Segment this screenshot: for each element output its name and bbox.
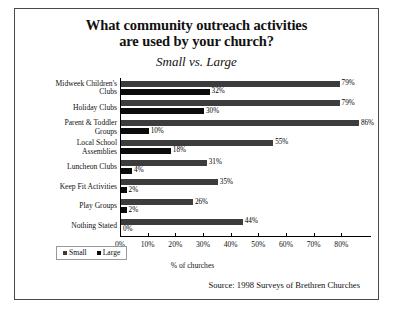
value-label-large: 0% — [123, 226, 133, 233]
value-label-large: 32% — [212, 88, 225, 95]
x-tick — [175, 233, 176, 237]
bar-group: Keep Fit Activities35%2% — [121, 177, 370, 197]
category-label: Holiday Clubs — [13, 103, 117, 111]
plot-area: Midweek Children's Clubs79%32%Holiday Cl… — [120, 78, 370, 236]
category-label: Play Groups — [13, 202, 117, 210]
chart-subtitle: Small vs. Large — [15, 54, 378, 70]
value-label-small: 55% — [275, 139, 288, 146]
x-axis-title: % of churches — [15, 261, 370, 270]
x-tick-label: 80% — [334, 240, 348, 249]
bar-large — [121, 89, 210, 95]
legend-item-large: Large — [97, 248, 121, 257]
chart-title: What community outreach activities are u… — [15, 18, 378, 49]
value-label-small: 35% — [220, 179, 233, 186]
x-tick-label: 30% — [196, 240, 210, 249]
value-label-large: 18% — [173, 147, 186, 154]
x-tick — [258, 233, 259, 237]
legend: Small Large — [56, 246, 127, 260]
bar-group: Local School Assemblies55%18% — [121, 137, 370, 157]
x-tick-label: 10% — [141, 240, 155, 249]
x-tick — [314, 233, 315, 237]
x-tick — [231, 233, 232, 237]
category-label: Midweek Children's Clubs — [13, 79, 117, 96]
bar-large — [121, 148, 171, 154]
x-tick — [148, 233, 149, 237]
bar-large — [121, 128, 149, 134]
legend-item-small: Small — [63, 248, 87, 257]
value-label-small: 31% — [209, 159, 222, 166]
bar-large — [121, 207, 127, 213]
value-label-large: 2% — [129, 207, 139, 214]
value-label-small: 79% — [342, 100, 355, 107]
x-tick-label: 50% — [251, 240, 265, 249]
bar-small — [121, 140, 273, 146]
legend-swatch-large-icon — [97, 251, 101, 255]
x-tick-label: 60% — [279, 240, 293, 249]
bar-group: Holiday Clubs79%30% — [121, 98, 370, 118]
value-label-small: 26% — [195, 199, 208, 206]
value-label-large: 10% — [151, 128, 164, 135]
chart-frame: What community outreach activities are u… — [14, 8, 379, 300]
x-tick — [341, 233, 342, 237]
category-label: Nothing Stated — [13, 222, 117, 230]
value-label-large: 2% — [129, 187, 139, 194]
x-tick-label: 20% — [168, 240, 182, 249]
x-tick — [286, 233, 287, 237]
legend-swatch-small-icon — [63, 251, 67, 255]
bar-small — [121, 120, 359, 126]
value-label-small: 79% — [342, 80, 355, 87]
x-tick-label: 70% — [307, 240, 321, 249]
bar-small — [121, 100, 340, 106]
source-note: Source: 1998 Surveys of Brethren Churche… — [15, 280, 360, 290]
bar-small — [121, 81, 340, 87]
bar-small — [121, 219, 243, 225]
bar-large — [121, 187, 127, 193]
value-label-large: 4% — [134, 167, 144, 174]
category-label: Local School Assemblies — [13, 139, 117, 156]
value-label-small: 86% — [361, 120, 374, 127]
chart-title-line2: are used by your church? — [15, 34, 378, 50]
legend-label-small: Small — [69, 248, 87, 257]
bar-large — [121, 108, 204, 114]
bar-small — [121, 179, 218, 185]
x-axis: 0%10%20%30%40%50%60%70%80% — [120, 236, 371, 237]
x-tick — [203, 233, 204, 237]
bar-group: Nothing Stated44%0% — [121, 216, 370, 236]
category-label: Keep Fit Activities — [13, 182, 117, 190]
x-tick — [120, 233, 121, 237]
value-label-large: 30% — [206, 108, 219, 115]
bar-group: Play Groups26%2% — [121, 197, 370, 217]
legend-label-large: Large — [103, 248, 121, 257]
chart-title-line1: What community outreach activities — [86, 17, 307, 33]
bar-group: Midweek Children's Clubs79%32% — [121, 78, 370, 98]
bar-large — [121, 168, 132, 174]
bar-group: Luncheon Clubs31%4% — [121, 157, 370, 177]
category-label: Luncheon Clubs — [13, 163, 117, 171]
value-label-small: 44% — [245, 218, 258, 225]
bar-small — [121, 160, 207, 166]
bar-group: Parent & Toddler Groups86%10% — [121, 118, 370, 138]
x-tick-label: 40% — [224, 240, 238, 249]
category-label: Parent & Toddler Groups — [13, 119, 117, 136]
bar-small — [121, 199, 193, 205]
